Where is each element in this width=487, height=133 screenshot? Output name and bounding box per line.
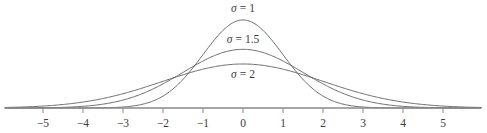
series-label-2: σ=2 [231, 68, 255, 80]
tick-label-5: 0 [240, 117, 246, 129]
equals-symbol-0: = [240, 2, 247, 14]
tick-label-10: 5 [440, 117, 446, 129]
series-annotations: σ=1σ=1.5σ=2 [227, 2, 260, 80]
tick-label-6: 1 [280, 117, 286, 129]
tick-label-2: −3 [117, 117, 129, 129]
tick-label-4: −1 [197, 117, 209, 129]
curves-group [5, 20, 481, 108]
tick-label-0: −5 [37, 117, 49, 129]
tick-label-8: 3 [360, 117, 366, 129]
tick-label-3: −2 [157, 117, 169, 129]
series-label-0: σ=1 [231, 2, 255, 14]
sigma-value-2: 2 [249, 68, 255, 80]
sigma-symbol-2: σ [231, 68, 238, 80]
sigma-value-0: 1 [249, 2, 255, 14]
tick-label-1: −4 [77, 117, 89, 129]
gaussian-distribution-chart: −5−4−3−2−1012345 σ=1σ=1.5σ=2 [0, 0, 487, 133]
sigma-symbol-1: σ [227, 33, 234, 45]
sigma-value-1: 1.5 [245, 33, 260, 45]
equals-symbol-2: = [240, 68, 247, 80]
series-label-1: σ=1.5 [227, 33, 260, 45]
chart-canvas: −5−4−3−2−1012345 σ=1σ=1.5σ=2 [0, 0, 487, 133]
equals-symbol-1: = [235, 33, 242, 45]
tick-label-7: 2 [320, 117, 326, 129]
tick-label-9: 4 [400, 117, 406, 129]
sigma-symbol-0: σ [231, 2, 238, 14]
x-axis-tick-labels: −5−4−3−2−1012345 [37, 117, 446, 129]
